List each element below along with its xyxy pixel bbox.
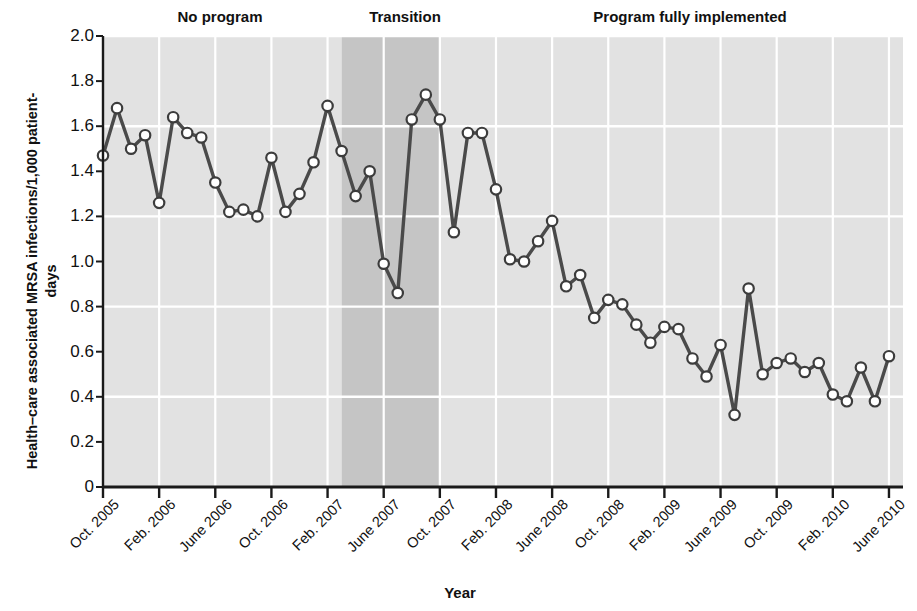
data-point-marker <box>154 198 164 208</box>
data-point-marker <box>463 128 473 138</box>
data-point-marker <box>603 295 613 305</box>
data-point-marker <box>421 89 431 99</box>
data-point-marker <box>842 396 852 406</box>
data-point-marker <box>645 337 655 347</box>
data-point-marker <box>757 369 767 379</box>
data-point-marker <box>533 236 543 246</box>
data-point-marker <box>589 313 599 323</box>
data-point-marker <box>519 256 529 266</box>
data-point-marker <box>505 254 515 264</box>
data-point-marker <box>350 191 360 201</box>
data-point-marker <box>308 157 318 167</box>
data-point-marker <box>729 410 739 420</box>
data-point-marker <box>631 319 641 329</box>
data-point-marker <box>828 389 838 399</box>
data-point-marker <box>238 204 248 214</box>
data-point-marker <box>449 227 459 237</box>
data-point-marker <box>673 324 683 334</box>
data-point-marker <box>322 101 332 111</box>
data-point-marker <box>800 367 810 377</box>
data-point-marker <box>870 396 880 406</box>
data-point-marker <box>435 114 445 124</box>
band-transition <box>342 36 440 487</box>
data-point-marker <box>182 128 192 138</box>
data-point-marker <box>266 153 276 163</box>
data-point-marker <box>561 281 571 291</box>
data-point-marker <box>140 130 150 140</box>
data-point-marker <box>252 211 262 221</box>
data-point-marker <box>659 322 669 332</box>
data-point-marker <box>547 216 557 226</box>
data-point-marker <box>617 299 627 309</box>
data-point-marker <box>336 146 346 156</box>
data-point-marker <box>393 288 403 298</box>
data-point-marker <box>715 340 725 350</box>
data-point-marker <box>196 132 206 142</box>
data-point-marker <box>210 177 220 187</box>
data-point-marker <box>477 128 487 138</box>
data-point-marker <box>364 166 374 176</box>
band-no-program <box>103 36 342 487</box>
data-point-marker <box>814 358 824 368</box>
x-axis-title: Year <box>380 584 540 601</box>
data-point-marker <box>379 259 389 269</box>
data-point-marker <box>294 189 304 199</box>
data-point-marker <box>575 270 585 280</box>
data-point-marker <box>280 207 290 217</box>
data-point-marker <box>743 283 753 293</box>
data-point-marker <box>491 184 501 194</box>
data-point-marker <box>856 362 866 372</box>
data-point-marker <box>126 144 136 154</box>
data-point-marker <box>407 114 417 124</box>
data-point-marker <box>771 358 781 368</box>
mrsa-infections-line-chart: No program Transition Program fully impl… <box>0 0 917 611</box>
data-point-marker <box>786 353 796 363</box>
data-point-marker <box>701 371 711 381</box>
data-point-marker <box>112 103 122 113</box>
data-point-marker <box>884 351 894 361</box>
data-point-marker <box>168 112 178 122</box>
data-point-marker <box>687 353 697 363</box>
data-point-marker <box>224 207 234 217</box>
